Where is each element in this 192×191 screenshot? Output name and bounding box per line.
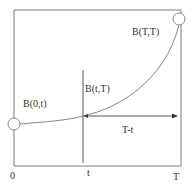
tick-label-T: T bbox=[173, 172, 179, 182]
label-interval: T-t bbox=[122, 125, 133, 135]
start-point-circle bbox=[8, 118, 20, 130]
tick-label-0: 0 bbox=[10, 171, 15, 181]
tick-label-t: t bbox=[87, 168, 90, 178]
label-b-T-T: B(T,T) bbox=[132, 27, 159, 37]
price-curve bbox=[20, 25, 179, 124]
label-b-0-t: B(0,t) bbox=[23, 99, 47, 109]
arrow-head-icon bbox=[172, 114, 178, 119]
arrow-tail-icon bbox=[84, 114, 88, 118]
bond-price-diagram bbox=[0, 0, 192, 191]
end-point-circle bbox=[173, 13, 185, 25]
label-b-t-T: B(t,T) bbox=[85, 84, 110, 94]
